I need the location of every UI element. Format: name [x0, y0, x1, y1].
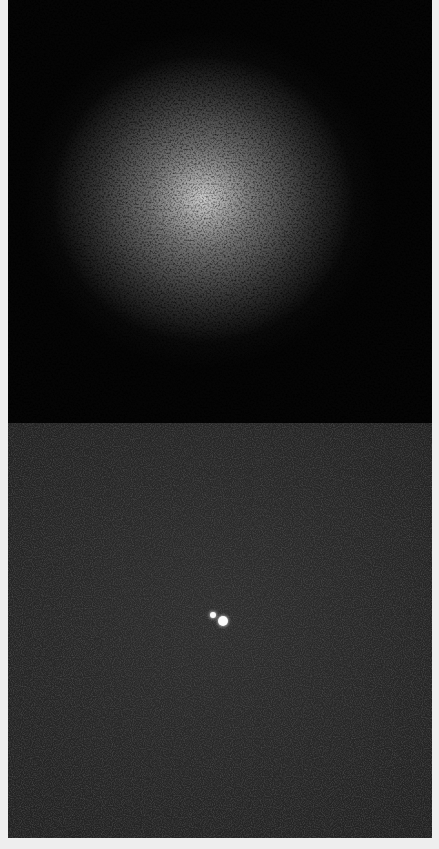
background-noise: [8, 423, 432, 838]
point-source-small: [210, 612, 216, 618]
speckle-noise: [8, 0, 432, 423]
point-sources-panel: [8, 423, 432, 838]
point-source-large: [218, 616, 228, 626]
image-frame: [8, 0, 432, 838]
speckle-pattern-panel: [8, 0, 432, 423]
